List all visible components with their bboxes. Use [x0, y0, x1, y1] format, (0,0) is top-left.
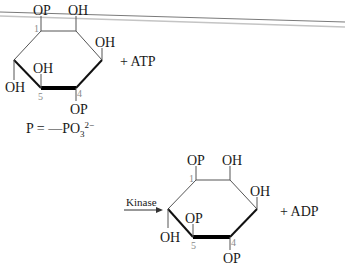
- product-inner-group: OP: [185, 211, 203, 226]
- product-top-left-group: OP: [187, 153, 205, 168]
- legend-subscript: 3: [80, 129, 85, 139]
- reaction-diagram: OP OH OH OH OH OP 1 5 4 + ATP P = —PO32−…: [0, 0, 345, 269]
- kinase-arrow: Kinase: [124, 196, 163, 213]
- svg-text:P = —PO32−: P = —PO32−: [26, 120, 94, 139]
- reactant-inner-group: OH: [33, 61, 53, 76]
- product-carbon-5-label: 5: [191, 240, 196, 251]
- reactant-left-group: OH: [5, 80, 25, 95]
- product-bottom-group: OP: [223, 251, 241, 266]
- reactant-top-left-group: OP: [33, 3, 51, 18]
- reactant-carbon-4-label: 4: [77, 88, 82, 99]
- arrowhead-icon: [156, 207, 163, 213]
- product-molecule: OP OH OH OP OH OP 1 5 4 + ADP: [160, 153, 319, 266]
- reactant-carbon-5-label: 5: [38, 91, 43, 102]
- reactant-right-group: OH: [95, 35, 115, 50]
- product-carbon-4-label: 4: [231, 237, 236, 248]
- legend-lhs: P =: [26, 121, 48, 136]
- reactant-top-right-group: OH: [68, 3, 88, 18]
- kinase-label: Kinase: [126, 196, 157, 208]
- legend-dash: —PO: [47, 121, 80, 136]
- product-coproduct-adp: + ADP: [280, 204, 319, 219]
- reactant-coreactant-atp: + ATP: [120, 54, 156, 69]
- product-left-group: OH: [160, 230, 180, 245]
- header-rules: [0, 12, 345, 27]
- product-carbon-1-label: 1: [189, 173, 194, 184]
- product-right-group: OH: [250, 184, 270, 199]
- reactant-bottom-group: OP: [70, 102, 88, 117]
- phosphate-legend: P = —PO32−: [26, 120, 94, 139]
- legend-superscript: 2−: [85, 120, 95, 130]
- reactant-carbon-1-label: 1: [34, 23, 39, 34]
- product-top-right-group: OH: [222, 153, 242, 168]
